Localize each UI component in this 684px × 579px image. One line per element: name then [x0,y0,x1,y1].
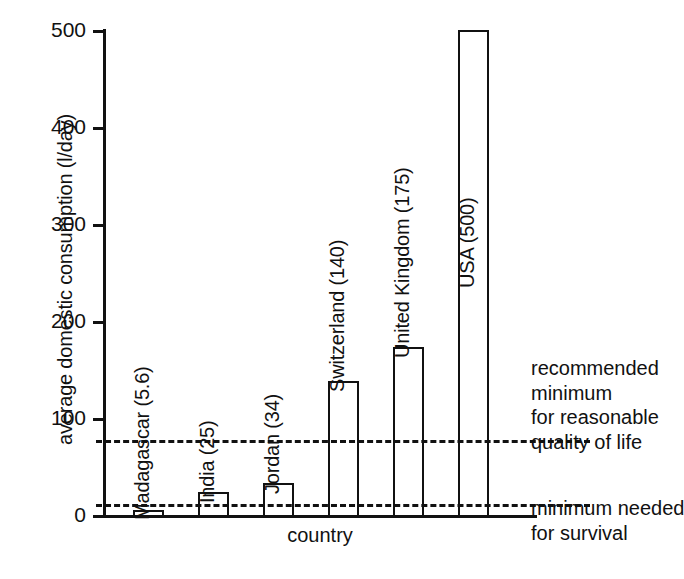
bar-label-usa: USA (500) [457,198,477,288]
y-tick-label-300: 300 [30,213,86,234]
y-axis-line [103,29,106,517]
page-edge-strip [0,566,677,579]
y-tick-300 [93,224,104,227]
annotation-recommended-line-3: for reasonable [531,405,659,430]
y-tick-400 [93,127,104,130]
bar-label-switzerland: Switzerland (140) [327,240,347,392]
y-tick-label-0: 0 [30,504,86,525]
annotation-recommended-line-4: quality of life [531,430,659,455]
bar-label-india: India (25) [197,421,217,504]
annotation-recommended-line-1: recommended [531,356,659,381]
reference-line-survival-minimum [96,504,590,507]
y-tick-label-200: 200 [30,310,86,331]
y-tick-label-400: 400 [30,116,86,137]
bar-label-madagascar: Madagascar (5.6) [132,366,152,520]
bar-united-kingdom [393,347,424,517]
annotation-survival-line-2: for survival [531,521,684,546]
bar-label-united-kingdom: United Kingdom (175) [392,167,412,358]
bar-switzerland [328,381,359,517]
y-tick-100 [93,418,104,421]
reference-line-recommended-minimum [96,440,590,443]
y-tick-200 [93,321,104,324]
y-tick-label-500: 500 [30,19,86,40]
x-axis-title: country [103,524,537,547]
annotation-recommended-line-2: minimum [531,381,659,406]
annotation-survival-minimum: minimum needed for survival [531,496,684,545]
annotation-survival-line-1: minimum needed [531,496,684,521]
y-tick-500 [93,30,104,33]
y-tick-0 [93,515,104,518]
y-tick-label-100: 100 [30,407,86,428]
annotation-recommended-minimum: recommended minimum for reasonable quali… [531,356,659,454]
bar-label-jordan: Jordan (34) [262,394,282,494]
